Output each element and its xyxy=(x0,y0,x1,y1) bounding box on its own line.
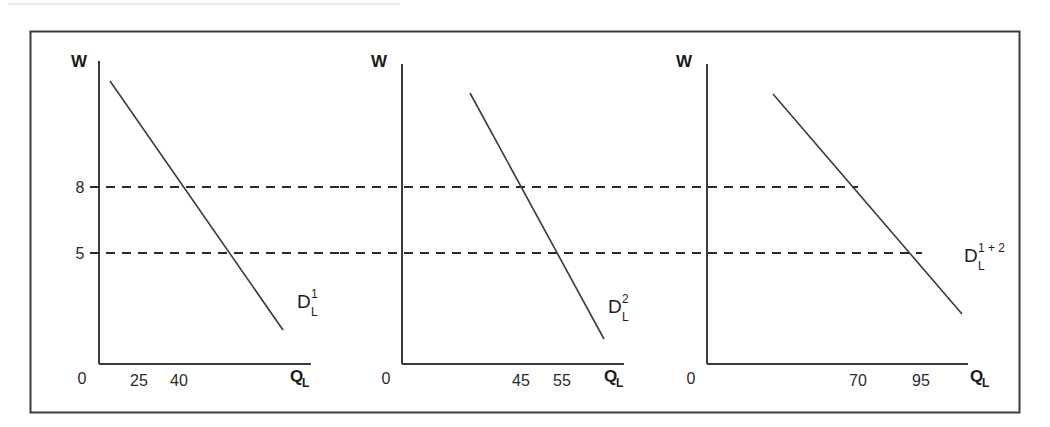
panel-3-x-axis-label-sub: L xyxy=(982,376,989,390)
panel-1-x-axis-label-sub: L xyxy=(302,376,309,390)
figure-frame xyxy=(31,32,1020,413)
panel-3-curve-label-superscript: 1 + 2 xyxy=(978,241,1005,255)
panel-3-xtick-95: 95 xyxy=(912,372,930,389)
panel-1-ytick-5: 5 xyxy=(76,245,85,262)
panel-2-curve-label: D xyxy=(608,296,622,317)
panel-2-xtick-45: 45 xyxy=(512,372,530,389)
panel-1-origin-label: 0 xyxy=(78,370,87,387)
panel-2-curve-label-subscript: L xyxy=(622,310,629,324)
panel-1: W 8 5 0 25 40 Q L D 1 L xyxy=(71,52,340,390)
panel-3-demand-curve xyxy=(773,94,962,314)
panel-2-curve-label-superscript: 2 xyxy=(622,292,629,306)
panel-3-curve-label: D xyxy=(964,245,978,266)
panel-1-y-axis-label: W xyxy=(71,52,88,71)
panel-2-y-axis-label: W xyxy=(371,52,388,71)
panel-1-curve-label-subscript: L xyxy=(311,305,318,319)
panel-2-xtick-55: 55 xyxy=(553,372,571,389)
panel-2-x-axis-label-sub: L xyxy=(616,376,623,390)
panel-1-xtick-25: 25 xyxy=(130,372,148,389)
panel-1-xtick-40: 40 xyxy=(170,372,188,389)
panel-3-origin-label: 0 xyxy=(687,370,696,387)
panel-2-origin-label: 0 xyxy=(382,370,391,387)
panel-3-y-axis-label: W xyxy=(676,52,693,71)
panel-3: W 0 70 95 Q L D 1 + 2 L xyxy=(660,52,1005,390)
panel-1-curve-label-superscript: 1 xyxy=(311,287,318,301)
panel-2-demand-curve xyxy=(470,93,604,339)
panel-3-xtick-70: 70 xyxy=(849,372,867,389)
panel-1-curve-label: D xyxy=(297,291,311,312)
labour-demand-figure: W 8 5 0 25 40 Q L D 1 L xyxy=(0,0,1050,427)
figure-canvas: W 8 5 0 25 40 Q L D 1 L xyxy=(0,0,1050,427)
panel-1-ytick-8: 8 xyxy=(76,179,85,196)
panel-1-demand-curve xyxy=(110,81,283,330)
panel-3-curve-label-subscript: L xyxy=(978,259,985,273)
panel-2: W 0 45 55 Q L D 2 L xyxy=(340,52,660,390)
